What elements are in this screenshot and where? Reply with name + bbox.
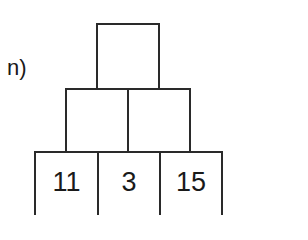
pyramid-cell-middle-left[interactable] [65,88,129,153]
problem-label: n) [7,56,27,80]
pyramid-cell-bottom-middle[interactable]: 3 [97,151,161,215]
pyramid-cell-middle-right[interactable] [127,88,191,153]
pyramid-cell-bottom-left[interactable]: 11 [34,151,99,215]
pyramid-cell-bottom-right[interactable]: 15 [159,151,223,215]
pyramid-cell-top[interactable] [96,23,160,90]
